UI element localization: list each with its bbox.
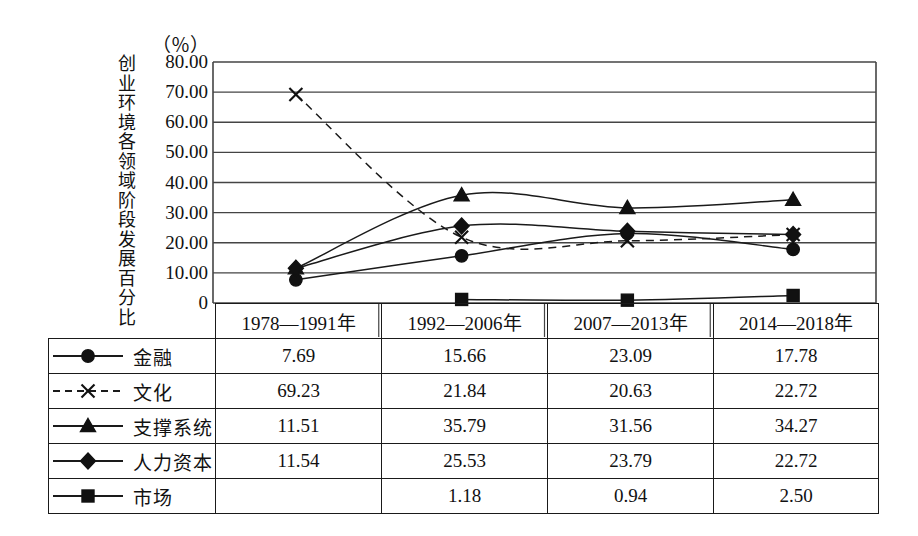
table-cell: 21.84 bbox=[382, 374, 548, 409]
table-row: 市场1.180.942.50 bbox=[49, 479, 879, 514]
legend-sample-square bbox=[49, 485, 127, 507]
table-cell: 15.66 bbox=[382, 339, 548, 374]
series-line bbox=[296, 193, 793, 269]
table-cell: 69.23 bbox=[216, 374, 382, 409]
table-row: 人力资本11.5425.5323.7922.72 bbox=[49, 444, 879, 479]
table-cell: 2.50 bbox=[714, 479, 879, 514]
column-header: 1978—1991年 bbox=[216, 304, 382, 339]
table-cell: 1.18 bbox=[382, 479, 548, 514]
table-cell: 34.27 bbox=[714, 409, 879, 444]
legend-sample-diamond bbox=[49, 450, 127, 472]
table-row: 文化69.2321.8420.6322.72 bbox=[49, 374, 879, 409]
column-header: 2014—2018年 bbox=[714, 304, 879, 339]
table-cell: 23.79 bbox=[548, 444, 714, 479]
table-cell: 25.53 bbox=[382, 444, 548, 479]
legend-cell-2: 支撑系统 bbox=[49, 409, 216, 444]
data-table: 1978—1991年 1992—2006年 2007—2013年 2014—20… bbox=[48, 303, 879, 514]
legend-cell-1: 文化 bbox=[49, 374, 216, 409]
legend-sample-x bbox=[49, 380, 127, 402]
table-cell: 7.69 bbox=[216, 339, 382, 374]
table-cell: 31.56 bbox=[548, 409, 714, 444]
table-cell: 0.94 bbox=[548, 479, 714, 514]
legend-cell-0: 金融 bbox=[49, 339, 216, 374]
marker-square bbox=[787, 289, 799, 301]
marker-triangle bbox=[81, 419, 96, 432]
series-3 bbox=[288, 218, 800, 276]
marker-triangle bbox=[620, 200, 635, 213]
table-cell bbox=[216, 479, 382, 514]
table-cell: 22.72 bbox=[714, 374, 879, 409]
table-row: 支撑系统11.5135.7931.5634.27 bbox=[49, 409, 879, 444]
table-cell: 23.09 bbox=[548, 339, 714, 374]
series-1 bbox=[289, 88, 799, 249]
legend-sample-circle bbox=[49, 345, 127, 367]
marker-square bbox=[82, 490, 94, 502]
legend-cell-3: 人力资本 bbox=[49, 444, 216, 479]
legend-label: 市场 bbox=[133, 483, 173, 510]
legend-entry: 市场 bbox=[49, 483, 215, 510]
legend-label: 金融 bbox=[133, 343, 173, 370]
column-header: 2007—2013年 bbox=[548, 304, 714, 339]
series-2 bbox=[288, 188, 800, 274]
table-cell: 17.78 bbox=[714, 339, 879, 374]
column-header: 1992—2006年 bbox=[382, 304, 548, 339]
chart-figure: （％） 创业环境各领域阶段发展百分比 80.0070.0060.0050.004… bbox=[0, 0, 918, 536]
legend-entry: 支撑系统 bbox=[49, 413, 215, 440]
series-0 bbox=[290, 227, 800, 286]
legend-cell-4: 市场 bbox=[49, 479, 216, 514]
legend-entry: 金融 bbox=[49, 343, 215, 370]
marker-circle bbox=[455, 250, 467, 262]
table-row: 金融7.6915.6623.0917.78 bbox=[49, 339, 879, 374]
marker-circle bbox=[787, 243, 799, 255]
table-header-row: 1978—1991年 1992—2006年 2007—2013年 2014—20… bbox=[49, 304, 879, 339]
legend-label: 支撑系统 bbox=[133, 413, 213, 440]
table-corner-cell bbox=[49, 304, 216, 339]
legend-label: 文化 bbox=[133, 378, 173, 405]
marker-x bbox=[289, 88, 302, 101]
marker-circle bbox=[82, 350, 94, 362]
legend-entry: 人力资本 bbox=[49, 448, 215, 475]
table-cell: 11.51 bbox=[216, 409, 382, 444]
marker-triangle bbox=[786, 192, 801, 205]
legend-entry: 文化 bbox=[49, 378, 215, 405]
legend-label: 人力资本 bbox=[133, 448, 213, 475]
table-cell: 35.79 bbox=[382, 409, 548, 444]
marker-diamond bbox=[81, 453, 96, 469]
table-body: 金融7.6915.6623.0917.78文化69.2321.8420.6322… bbox=[49, 339, 879, 514]
table-cell: 20.63 bbox=[548, 374, 714, 409]
table-cell: 22.72 bbox=[714, 444, 879, 479]
legend-sample-triangle bbox=[49, 415, 127, 437]
table-cell: 11.54 bbox=[216, 444, 382, 479]
